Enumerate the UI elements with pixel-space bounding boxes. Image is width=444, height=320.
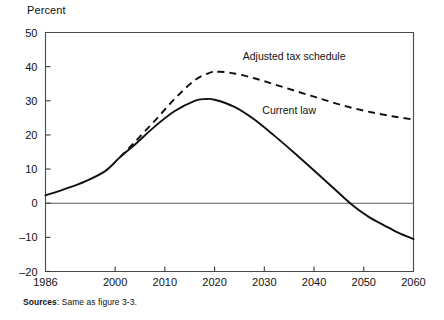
- annotation-layer: Adjusted tax scheduleCurrent law: [243, 50, 346, 117]
- x-tick-label: 2000: [103, 276, 127, 288]
- line-chart: –20–100102030405019862000201020202030204…: [0, 0, 444, 320]
- series-annotation-current-law: Current law: [262, 104, 316, 116]
- axes-layer: [46, 33, 414, 272]
- y-tick-label: 0: [31, 197, 37, 209]
- y-tick-label: 50: [25, 27, 37, 39]
- y-tick-label: 30: [25, 95, 37, 107]
- plot-frame: [46, 33, 414, 272]
- y-tick-label: 10: [25, 163, 37, 175]
- x-tick-label: 2060: [401, 276, 425, 288]
- series-layer: [46, 72, 414, 239]
- figure-container: Percent –20–1001020304050198620002010202…: [0, 0, 444, 320]
- x-tick-label: 2050: [352, 276, 376, 288]
- y-tick-label: –10: [19, 231, 37, 243]
- series-annotation-adjusted-tax-schedule: Adjusted tax schedule: [243, 50, 346, 62]
- tick-labels-layer: –20–100102030405019862000201020202030204…: [19, 27, 426, 288]
- sources-label: Sources: [23, 297, 57, 307]
- series-line-current-law: [46, 99, 414, 239]
- x-tick-label: 1986: [33, 276, 57, 288]
- y-tick-label: 20: [25, 129, 37, 141]
- x-tick-label: 2030: [252, 276, 276, 288]
- x-tick-label: 2020: [202, 276, 226, 288]
- y-axis-title: Percent: [27, 4, 66, 16]
- sources-note: Sources: Same as figure 3-3.: [23, 297, 137, 307]
- sources-text: : Same as figure 3-3.: [57, 297, 137, 307]
- x-tick-label: 2010: [153, 276, 177, 288]
- y-tick-label: 40: [25, 61, 37, 73]
- x-tick-label: 2040: [302, 276, 326, 288]
